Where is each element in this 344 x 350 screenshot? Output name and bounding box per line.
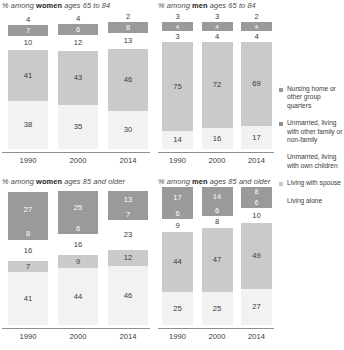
bar-column: 13 7 23 12 46 (108, 187, 148, 325)
value-own-children: 4 (215, 33, 219, 41)
x-axis-line (158, 328, 274, 329)
legend-label: Nursing home or other group quarters (287, 85, 343, 110)
value-alone: 30 (124, 126, 132, 134)
x-axis-line (2, 152, 150, 153)
legend-label: Living with spouse (287, 179, 341, 187)
panel-men-65-84: % among men ages 65 to 84 3 4 3 75 14 3 … (158, 0, 276, 170)
chart-legend: Nursing home or other group quarters Unm… (279, 85, 343, 214)
value-other-family: 6 (255, 200, 259, 207)
value-other-family: 8 (26, 230, 30, 238)
panel-title-prefix: % among (158, 1, 192, 10)
value-other-family: 4 (176, 24, 179, 30)
value-alone: 35 (74, 123, 82, 131)
value-own-children: 16 (74, 241, 82, 249)
chart-figure: % among women ages 65 to 84 4 7 10 41 38… (0, 0, 344, 350)
value-spouse: 7 (26, 263, 30, 271)
x-axis-labels: 1990 2000 2014 (158, 332, 276, 341)
value-spouse: 44 (173, 258, 181, 266)
value-other-family: 4 (215, 24, 218, 30)
value-alone: 38 (24, 121, 32, 129)
value-alone: 25 (213, 305, 221, 313)
value-own-children: 8 (215, 218, 219, 226)
legend-swatch-icon (279, 199, 283, 203)
x-tick: 2014 (241, 332, 272, 341)
legend-swatch-icon (279, 182, 283, 186)
plot-area: 4 7 10 41 38 4 6 12 43 35 2 8 13 46 30 (2, 11, 154, 149)
bar-column: 2 4 4 69 17 (241, 11, 272, 149)
panel-title-bold: men (192, 1, 208, 10)
x-tick: 1990 (162, 332, 193, 341)
value-nursing: 3 (175, 13, 179, 21)
x-axis-labels: 1990 2000 2014 (2, 156, 154, 165)
value-other-family: 6 (175, 210, 179, 218)
x-axis-labels: 1990 2000 2014 (2, 332, 154, 341)
panel-title-bold: women (36, 177, 62, 186)
x-tick: 2014 (241, 156, 272, 165)
bar-column: 4 7 10 41 38 (8, 11, 48, 149)
plot-area: 17 6 9 44 25 14 6 8 47 25 8 6 10 49 27 (158, 187, 276, 325)
value-spouse: 75 (173, 83, 181, 91)
value-nursing: 4 (26, 16, 30, 24)
value-nursing: 17 (173, 194, 181, 202)
value-alone: 27 (252, 303, 260, 311)
panel-title-suffix: ages 85 and older (208, 177, 271, 186)
bar-column: 25 6 16 9 44 (58, 187, 98, 325)
bar-column: 4 6 12 43 35 (58, 11, 98, 149)
panel-women-65-84: % among women ages 65 to 84 4 7 10 41 38… (2, 0, 154, 170)
legend-label: Living alone (287, 197, 322, 205)
value-alone: 17 (252, 134, 260, 142)
legend-item-spouse: Living with spouse (279, 179, 343, 187)
legend-item-own-children: Unmarried, living with own children (279, 153, 343, 170)
panel-title: % among men ages 85 and older (158, 176, 276, 187)
value-other-family: 6 (76, 26, 80, 34)
value-spouse: 49 (252, 252, 260, 260)
panel-title: % among women ages 65 to 84 (2, 0, 154, 11)
value-own-children: 10 (252, 212, 260, 220)
legend-item-other-family: Unmarried, living with other family or n… (279, 119, 343, 144)
value-alone: 16 (213, 135, 221, 143)
legend-item-nursing-home: Nursing home or other group quarters (279, 85, 343, 110)
value-nursing: 4 (76, 15, 80, 23)
panel-title-suffix: ages 65 to 84 (208, 1, 256, 10)
bar-column: 3 4 3 75 14 (162, 11, 193, 149)
value-nursing: 8 (255, 189, 259, 196)
panel-women-85-older: % among women ages 85 and older 27 8 16 … (2, 176, 154, 348)
value-other-family: 4 (255, 24, 258, 30)
legend-swatch-icon (279, 122, 283, 126)
value-alone: 41 (24, 295, 32, 303)
legend-swatch-icon (279, 88, 283, 92)
value-own-children: 3 (175, 33, 179, 41)
x-tick: 1990 (162, 156, 193, 165)
x-tick: 2014 (108, 332, 148, 341)
bar-column: 2 8 13 46 30 (108, 11, 148, 149)
value-nursing: 3 (215, 13, 219, 21)
value-spouse: 12 (124, 254, 132, 262)
bar-column: 14 6 8 47 25 (202, 187, 233, 325)
x-tick: 2000 (58, 156, 98, 165)
value-own-children: 4 (254, 33, 258, 41)
value-other-family: 6 (215, 207, 219, 215)
value-other-family: 8 (126, 24, 130, 32)
value-nursing: 13 (124, 196, 132, 204)
panel-men-85-older: % among men ages 85 and older 17 6 9 44 … (158, 176, 276, 348)
x-tick: 1990 (8, 332, 48, 341)
value-other-family: 6 (76, 225, 80, 233)
value-nursing: 2 (254, 13, 258, 21)
x-axis-line (2, 328, 150, 329)
panel-title-suffix: ages 85 and older (62, 177, 125, 186)
value-alone: 44 (74, 293, 82, 301)
legend-label: Unmarried, living with own children (287, 153, 343, 170)
value-nursing: 2 (126, 13, 130, 21)
bar-column: 27 8 16 7 41 (8, 187, 48, 325)
panel-title-suffix: ages 65 to 84 (62, 1, 110, 10)
legend-swatch-icon (279, 156, 283, 160)
plot-area: 3 4 3 75 14 3 4 4 72 16 2 4 4 69 17 (158, 11, 276, 149)
panel-title-prefix: % among (2, 177, 36, 186)
value-alone: 14 (173, 136, 181, 144)
value-spouse: 43 (74, 74, 82, 82)
x-tick: 2014 (108, 156, 148, 165)
value-own-children: 10 (24, 39, 32, 47)
legend-item-alone: Living alone (279, 197, 343, 205)
plot-area: 27 8 16 7 41 25 6 16 9 44 13 7 23 12 46 (2, 187, 154, 325)
value-alone: 46 (124, 292, 132, 300)
